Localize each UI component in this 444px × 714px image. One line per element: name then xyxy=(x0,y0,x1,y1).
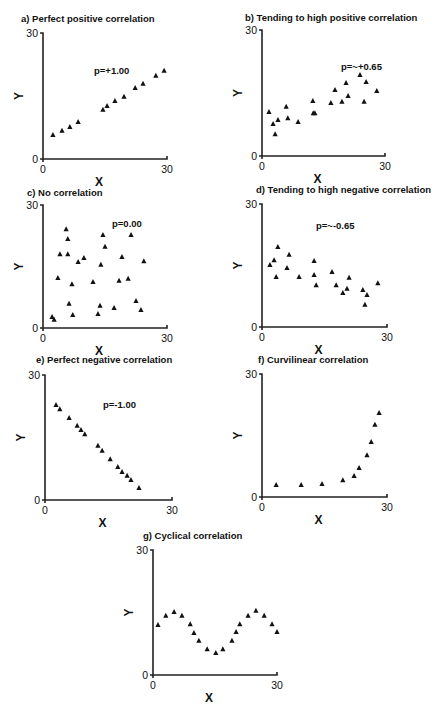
x-tick-max: 30 xyxy=(166,504,178,516)
triangle-marker-icon xyxy=(271,257,276,262)
panel-b: b) Tending to high positive correlation0… xyxy=(231,12,418,186)
triangle-marker-icon xyxy=(274,482,279,487)
triangle-marker-icon xyxy=(59,128,64,133)
y-tick-min: 0 xyxy=(251,321,257,333)
triangle-marker-icon xyxy=(65,251,70,256)
triangle-marker-icon xyxy=(286,252,291,257)
triangle-marker-icon xyxy=(310,98,315,103)
panel-title: f) Curvilinear correlation xyxy=(258,354,369,365)
triangle-marker-icon xyxy=(205,646,210,651)
x-tick-max: 30 xyxy=(381,331,393,343)
triangle-marker-icon xyxy=(163,613,168,618)
x-axis-label: X xyxy=(205,691,213,705)
triangle-marker-icon xyxy=(284,104,289,109)
triangle-marker-icon xyxy=(121,94,126,99)
triangle-marker-icon xyxy=(329,269,334,274)
triangle-marker-icon xyxy=(50,132,55,137)
triangle-marker-icon xyxy=(90,279,95,284)
triangle-marker-icon xyxy=(98,262,103,267)
panel-title: a) Perfect positive correlation xyxy=(21,13,155,24)
panel-c: c) No correlation030030XYp=0.00 xyxy=(12,187,173,358)
triangle-marker-icon xyxy=(119,469,124,474)
triangle-marker-icon xyxy=(70,312,75,317)
panel-title: e) Perfect negative correlation xyxy=(36,354,172,365)
triangle-marker-icon xyxy=(262,613,267,618)
triangle-marker-icon xyxy=(357,72,362,77)
correlation-coefficient: p=0.00 xyxy=(112,218,142,229)
triangle-marker-icon xyxy=(275,117,280,122)
triangle-marker-icon xyxy=(314,282,319,287)
triangle-marker-icon xyxy=(112,98,117,103)
triangle-marker-icon xyxy=(299,482,304,487)
x-axis-label: X xyxy=(314,513,322,527)
triangle-marker-icon xyxy=(376,410,381,415)
x-tick-min: 0 xyxy=(150,679,156,691)
triangle-marker-icon xyxy=(76,119,81,124)
y-axis xyxy=(40,205,43,331)
panel-d: d) Tending to high negative correlation0… xyxy=(231,184,431,357)
triangle-marker-icon xyxy=(284,265,289,270)
y-axis-label: Y xyxy=(14,433,28,441)
triangle-marker-icon xyxy=(360,287,365,292)
y-tick-max: 30 xyxy=(245,24,257,36)
x-tick-max: 30 xyxy=(379,160,391,172)
triangle-marker-icon xyxy=(351,473,356,478)
triangle-marker-icon xyxy=(364,79,369,84)
triangle-marker-icon xyxy=(196,638,201,643)
triangle-marker-icon xyxy=(66,301,71,306)
triangle-marker-icon xyxy=(270,121,275,126)
correlation-figure: a) Perfect positive correlation030030XYp… xyxy=(0,0,444,714)
triangle-marker-icon xyxy=(372,422,377,427)
correlation-coefficient: p=~+0.65 xyxy=(341,61,383,72)
triangle-marker-icon xyxy=(245,613,250,618)
panel-title: d) Tending to high negative correlation xyxy=(256,184,431,195)
triangle-marker-icon xyxy=(133,298,138,303)
y-tick-min: 0 xyxy=(142,669,148,681)
triangle-marker-icon xyxy=(274,274,279,279)
triangle-marker-icon xyxy=(111,305,116,310)
triangle-marker-icon xyxy=(67,124,72,129)
panel-f: f) Curvilinear correlation030030XY xyxy=(231,354,393,527)
triangle-marker-icon xyxy=(104,103,109,108)
triangle-marker-icon xyxy=(374,88,379,93)
triangle-marker-icon xyxy=(116,278,121,283)
triangle-marker-icon xyxy=(339,99,344,104)
triangle-marker-icon xyxy=(53,402,58,407)
triangle-marker-icon xyxy=(191,630,196,635)
triangle-marker-icon xyxy=(115,464,120,469)
y-tick-min: 0 xyxy=(251,491,257,503)
triangle-marker-icon xyxy=(266,109,271,114)
triangle-marker-icon xyxy=(253,608,258,613)
y-tick-max: 30 xyxy=(245,368,257,380)
y-tick-max: 30 xyxy=(26,199,38,211)
triangle-marker-icon xyxy=(220,646,225,651)
triangle-marker-icon xyxy=(153,73,158,78)
triangle-marker-icon xyxy=(369,439,374,444)
x-tick-min: 0 xyxy=(40,163,46,175)
triangle-marker-icon xyxy=(133,85,138,90)
triangle-marker-icon xyxy=(95,311,100,316)
triangle-marker-icon xyxy=(364,452,369,457)
x-tick-max: 30 xyxy=(271,679,283,691)
x-axis xyxy=(259,324,387,327)
triangle-marker-icon xyxy=(267,262,272,267)
triangle-marker-icon xyxy=(311,272,316,277)
triangle-marker-icon xyxy=(155,622,160,627)
x-axis xyxy=(150,672,277,675)
triangle-marker-icon xyxy=(162,68,167,73)
triangle-marker-icon xyxy=(55,275,60,280)
triangle-marker-icon xyxy=(95,443,100,448)
y-axis-label: Y xyxy=(231,431,245,439)
x-axis xyxy=(259,153,385,156)
correlation-coefficient: p=+1.00 xyxy=(94,65,129,76)
y-axis xyxy=(259,204,262,330)
triangle-marker-icon xyxy=(332,87,337,92)
panel-title: c) No correlation xyxy=(27,187,103,198)
triangle-marker-icon xyxy=(285,115,290,120)
triangle-marker-icon xyxy=(275,244,280,249)
panel-e: e) Perfect negative correlation030030XYp… xyxy=(14,354,178,530)
triangle-marker-icon xyxy=(136,485,141,490)
y-tick-max: 30 xyxy=(26,27,38,39)
triangle-marker-icon xyxy=(295,119,300,124)
triangle-marker-icon xyxy=(126,276,131,281)
